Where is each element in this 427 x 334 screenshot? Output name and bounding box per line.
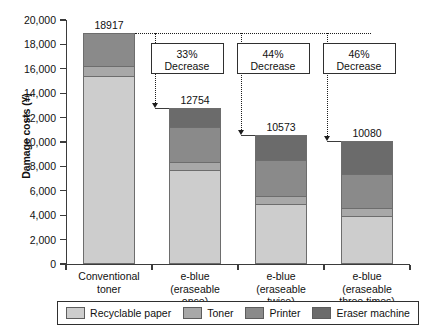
- y-axis-tick-label: 16,000: [24, 63, 56, 75]
- y-axis-tick-label: 8,000: [30, 160, 56, 172]
- x-axis-tick-mark: [151, 265, 152, 270]
- bar-segment-toner[interactable]: [169, 162, 221, 171]
- decrease-callout-box: 44%Decrease: [237, 43, 310, 74]
- bar-segment-toner[interactable]: [255, 196, 307, 205]
- decrease-word-text: Decrease: [324, 60, 395, 72]
- bar-total-label: 10080: [352, 127, 381, 139]
- bar-segment-toner[interactable]: [341, 208, 393, 217]
- bar-segment-eraser-machine[interactable]: [341, 141, 393, 174]
- decrease-arrow-elbow: [155, 108, 169, 109]
- y-axis-tick-label: 6,000: [30, 185, 56, 197]
- reference-dotted-line: [135, 33, 371, 34]
- y-axis-tick-label: 2,000: [30, 234, 56, 246]
- legend-entry[interactable]: Toner: [183, 307, 233, 319]
- decrease-word-text: Decrease: [238, 60, 309, 72]
- bar-segment-recyclable-paper[interactable]: [255, 204, 307, 264]
- y-axis-tick-label: 10,000: [24, 136, 56, 148]
- x-axis-tick-mark: [237, 265, 238, 270]
- legend-entry[interactable]: Printer: [245, 307, 300, 319]
- decrease-arrow-elbow: [241, 135, 255, 136]
- chart-legend: Recyclable paperTonerPrinterEraser machi…: [57, 301, 419, 325]
- y-axis-tick-label: 12,000: [24, 112, 56, 124]
- y-axis-tick-label: 0: [50, 258, 56, 270]
- decrease-percent-text: 33%: [152, 48, 223, 60]
- y-axis-tick-label: 18,000: [24, 38, 56, 50]
- bar-segment-printer[interactable]: [255, 160, 307, 195]
- legend-entry[interactable]: Recyclable paper: [66, 307, 171, 319]
- bar-segment-recyclable-paper[interactable]: [169, 170, 221, 264]
- bar-segment-eraser-machine[interactable]: [169, 108, 221, 127]
- y-axis-tick-label: 4,000: [30, 209, 56, 221]
- legend-entry[interactable]: Eraser machine: [312, 307, 410, 319]
- bar-segment-recyclable-paper[interactable]: [341, 216, 393, 264]
- decrease-percent-text: 44%: [238, 48, 309, 60]
- bar-segment-printer[interactable]: [341, 174, 393, 208]
- legend-label: Printer: [269, 307, 300, 319]
- bar-segment-printer[interactable]: [83, 33, 135, 66]
- decrease-callout-box: 33%Decrease: [151, 43, 224, 74]
- decrease-word-text: Decrease: [152, 60, 223, 72]
- decrease-arrow-elbow: [327, 141, 341, 142]
- legend-swatch-icon: [66, 307, 85, 319]
- bar-total-label: 18917: [94, 19, 123, 31]
- legend-label: Recyclable paper: [90, 307, 171, 319]
- legend-swatch-icon: [183, 307, 202, 319]
- stacked-bar-chart: Damage costs (¥) 20,00018,00016,00014,00…: [0, 0, 427, 334]
- legend-swatch-icon: [312, 307, 331, 319]
- bar-stack[interactable]: [83, 20, 135, 264]
- legend-swatch-icon: [245, 307, 264, 319]
- y-axis-tick-label: 14,000: [24, 87, 56, 99]
- bar-total-label: 10573: [266, 121, 295, 133]
- decrease-percent-text: 46%: [324, 48, 395, 60]
- bar-total-label: 12754: [180, 94, 209, 106]
- legend-label: Eraser machine: [336, 307, 410, 319]
- legend-label: Toner: [207, 307, 233, 319]
- x-axis-tick-mark: [65, 265, 66, 270]
- bar-segment-eraser-machine[interactable]: [255, 135, 307, 160]
- x-axis-tick-mark: [409, 265, 410, 270]
- decrease-callout-box: 46%Decrease: [323, 43, 396, 74]
- bar-segment-printer[interactable]: [169, 127, 221, 161]
- bar-segment-toner[interactable]: [83, 66, 135, 76]
- x-axis-category-label: Conventionaltoner: [78, 270, 139, 295]
- y-axis-tick-label: 20,000: [24, 14, 56, 26]
- bar-segment-recyclable-paper[interactable]: [83, 76, 135, 264]
- x-axis-tick-mark: [323, 265, 324, 270]
